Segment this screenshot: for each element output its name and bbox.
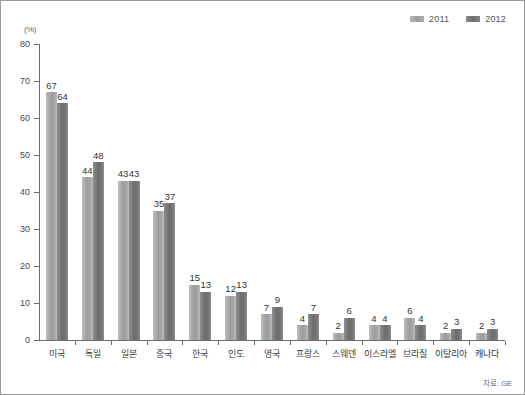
bar-value-2011-일본: 43 <box>118 169 129 179</box>
bar-2012-영국[interactable]: 9 <box>272 307 283 340</box>
bar-value-2011-독일: 44 <box>82 166 93 176</box>
bar-value-2012-이스라엘: 4 <box>382 314 387 324</box>
bar-2011-캐나다[interactable]: 2 <box>476 333 487 340</box>
bar-2012-중국[interactable]: 37 <box>164 203 175 340</box>
bar-rect-2011-브라질 <box>404 318 415 340</box>
bar-value-2012-인도: 13 <box>236 280 247 290</box>
x-category-label-독일: 독일 <box>85 347 101 360</box>
x-tick-11 <box>433 341 434 345</box>
x-category-label-중국: 중국 <box>156 347 172 360</box>
bar-rect-2011-인도 <box>225 296 236 340</box>
bar-2012-독일[interactable]: 48 <box>93 162 104 340</box>
bar-value-2011-영국: 7 <box>264 303 269 313</box>
bar-2011-이스라엘[interactable]: 4 <box>369 325 380 340</box>
bar-2012-스웨덴[interactable]: 6 <box>344 318 355 340</box>
x-category-label-캐나다: 캐나다 <box>475 347 499 360</box>
bar-rect-2012-인도 <box>236 292 247 340</box>
x-tick-7 <box>290 341 291 345</box>
bar-group-캐나다: 23캐나다 <box>469 44 505 340</box>
bar-rect-2011-독일 <box>82 177 93 340</box>
bar-group-독일: 4448독일 <box>75 44 111 340</box>
bar-value-2011-캐나다: 2 <box>479 321 484 331</box>
bar-group-일본: 4343일본 <box>111 44 147 340</box>
bar-value-2012-스웨덴: 6 <box>347 306 352 316</box>
y-tick-label-10: 10 <box>20 298 30 308</box>
x-tick-13 <box>505 341 506 345</box>
bar-value-2011-스웨덴: 2 <box>336 321 341 331</box>
chart-figure: 20112012 (%) 01020304050607080 6764미국444… <box>0 0 525 395</box>
bar-2012-이스라엘[interactable]: 4 <box>380 325 391 340</box>
bar-rect-2012-캐나다 <box>487 329 498 340</box>
y-tick-label-40: 40 <box>20 187 30 197</box>
x-tick-1 <box>75 341 76 345</box>
bar-value-2012-미국: 64 <box>57 92 68 102</box>
x-tick-9 <box>362 341 363 345</box>
bar-rect-2011-캐나다 <box>476 333 487 340</box>
bar-2011-스웨덴[interactable]: 2 <box>333 333 344 340</box>
bar-value-2012-이탈리아: 3 <box>454 317 459 327</box>
bar-rect-2012-스웨덴 <box>344 318 355 340</box>
bar-2012-브라질[interactable]: 4 <box>415 325 426 340</box>
bar-2011-영국[interactable]: 7 <box>261 314 272 340</box>
bar-rect-2012-일본 <box>129 181 140 340</box>
x-axis-line <box>39 340 505 341</box>
bar-rect-2011-이탈리아 <box>440 333 451 340</box>
bar-rect-2012-브라질 <box>415 325 426 340</box>
legend-entry-2011[interactable]: 2011 <box>410 14 449 24</box>
bar-2012-일본[interactable]: 43 <box>129 181 140 340</box>
bar-2011-일본[interactable]: 43 <box>118 181 129 340</box>
bar-2011-프랑스[interactable]: 4 <box>297 325 308 340</box>
bar-group-프랑스: 47프랑스 <box>290 44 326 340</box>
x-category-label-프랑스: 프랑스 <box>296 347 320 360</box>
bar-rect-2011-일본 <box>118 181 129 340</box>
bar-rect-2012-이스라엘 <box>380 325 391 340</box>
x-category-label-이탈리아: 이탈리아 <box>435 347 467 360</box>
x-category-label-영국: 영국 <box>264 347 280 360</box>
bar-rect-2011-미국 <box>46 92 57 340</box>
x-tick-12 <box>469 341 470 345</box>
x-category-label-이스라엘: 이스라엘 <box>364 347 396 360</box>
bar-group-한국: 1513한국 <box>182 44 218 340</box>
x-tick-6 <box>254 341 255 345</box>
bar-2012-이탈리아[interactable]: 3 <box>451 329 462 340</box>
bar-value-2012-독일: 48 <box>93 151 104 161</box>
bar-rect-2012-프랑스 <box>308 314 319 340</box>
bar-2012-한국[interactable]: 13 <box>200 292 211 340</box>
bar-value-2011-이스라엘: 4 <box>371 314 376 324</box>
bar-2012-미국[interactable]: 64 <box>57 103 68 340</box>
y-tick-label-50: 50 <box>20 150 30 160</box>
bar-group-브라질: 64브라질 <box>397 44 433 340</box>
x-category-label-한국: 한국 <box>192 347 208 360</box>
bar-group-인도: 1213인도 <box>218 44 254 340</box>
bar-rect-2011-영국 <box>261 314 272 340</box>
bar-2011-한국[interactable]: 15 <box>189 285 200 341</box>
source-note: 자료: GE <box>483 377 512 388</box>
bar-groups: 6764미국4448독일4343일본3537중국1513한국1213인도79영국… <box>39 44 505 340</box>
x-category-label-인도: 인도 <box>228 347 244 360</box>
legend-entry-2012[interactable]: 2012 <box>466 14 506 24</box>
bar-2012-캐나다[interactable]: 3 <box>487 329 498 340</box>
bar-value-2012-일본: 43 <box>129 169 140 179</box>
bar-2012-프랑스[interactable]: 7 <box>308 314 319 340</box>
bar-rect-2011-중국 <box>153 211 164 341</box>
bar-2011-브라질[interactable]: 6 <box>404 318 415 340</box>
bar-rect-2011-한국 <box>189 285 200 341</box>
x-category-label-브라질: 브라질 <box>403 347 427 360</box>
bar-group-중국: 3537중국 <box>147 44 183 340</box>
bar-rect-2011-이스라엘 <box>369 325 380 340</box>
y-tick-label-70: 70 <box>20 76 30 86</box>
bar-2011-이탈리아[interactable]: 2 <box>440 333 451 340</box>
bar-value-2012-중국: 37 <box>165 192 176 202</box>
bar-rect-2012-미국 <box>57 103 68 340</box>
bar-2011-미국[interactable]: 67 <box>46 92 57 340</box>
bar-2012-인도[interactable]: 13 <box>236 292 247 340</box>
bar-2011-중국[interactable]: 35 <box>153 211 164 341</box>
x-tick-3 <box>147 341 148 345</box>
x-category-label-스웨덴: 스웨덴 <box>332 347 356 360</box>
bar-rect-2012-이탈리아 <box>451 329 462 340</box>
bar-rect-2012-영국 <box>272 307 283 340</box>
bar-2011-인도[interactable]: 12 <box>225 296 236 340</box>
x-tick-4 <box>182 341 183 345</box>
bar-rect-2012-중국 <box>164 203 175 340</box>
bar-2011-독일[interactable]: 44 <box>82 177 93 340</box>
